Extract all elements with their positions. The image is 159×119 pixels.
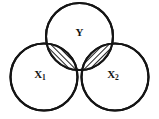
venn-diagram-canvas: Y X1 X2 <box>0 0 159 119</box>
venn-diagram-container: Y X1 X2 <box>0 0 159 119</box>
label-x1-text: X <box>34 68 42 80</box>
circle-outline-overlay <box>11 3 149 111</box>
label-x2: X2 <box>107 68 119 82</box>
label-y-text: Y <box>76 26 84 38</box>
label-x2-subscript: 2 <box>115 73 119 82</box>
label-x1: X1 <box>34 68 46 82</box>
label-x2-text: X <box>107 68 115 80</box>
circle-group <box>11 3 149 111</box>
label-x1-subscript: 1 <box>42 73 46 82</box>
label-y: Y <box>76 26 84 38</box>
